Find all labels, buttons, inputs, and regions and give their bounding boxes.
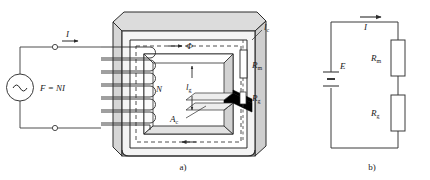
mmf-label: F = NI — [39, 83, 66, 93]
circuit-wires-b — [331, 22, 398, 148]
emf-source-symbol — [323, 72, 339, 86]
magnetic-circuit-figure: lg Ac lc Φ Rm Rg — [0, 0, 430, 180]
terminal-bottom — [52, 125, 57, 130]
emf-label: E — [339, 61, 346, 71]
current-indicator-a: I — [62, 29, 78, 41]
air-gap-spacer — [240, 92, 246, 104]
resistor-core-box — [391, 40, 405, 76]
window-inner-left — [144, 54, 153, 134]
turns-label: N — [155, 84, 163, 94]
reluctance-core-box — [240, 50, 247, 78]
core-length-label: lc — [264, 22, 270, 33]
current-label-a: I — [65, 29, 70, 39]
core-left-face — [113, 22, 122, 156]
core-right-face — [255, 21, 266, 156]
figure-root: lg Ac lc Φ Rm Rg — [0, 0, 430, 180]
current-label-b: I — [363, 22, 368, 32]
panel-b-caption: b) — [368, 162, 376, 172]
terminal-top — [52, 44, 57, 49]
panel-a: lg Ac lc Φ Rm Rg — [7, 12, 270, 172]
current-indicator-b: I — [360, 17, 381, 32]
window-inner-top — [144, 54, 233, 63]
window-inner-bottom — [144, 126, 233, 134]
core-top-face — [113, 12, 266, 31]
resistor-core-b: Rm — [370, 40, 405, 76]
resistor-gap-b: Rg — [370, 95, 405, 131]
resistor-gap-label: Rg — [370, 108, 380, 119]
panel-b: E Rm Rg I b) — [323, 17, 405, 172]
resistor-gap-box — [391, 95, 405, 131]
flux-label: Φ — [186, 41, 193, 51]
panel-a-caption: a) — [180, 162, 187, 172]
resistor-core-label: Rm — [370, 53, 382, 64]
ac-source-symbol — [7, 74, 34, 101]
